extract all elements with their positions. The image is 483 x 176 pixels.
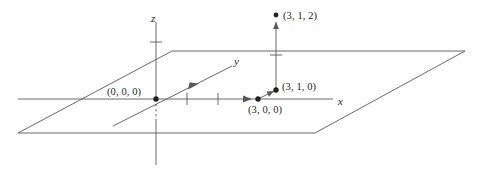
x-step-arrowhead (243, 95, 252, 102)
point-dot-origin (153, 96, 158, 101)
point-label-p312: (3, 1, 2) (283, 11, 317, 22)
coordinate-diagram-figure: x y z (0, 0, 0) (3, 0, 0) (3, 1, 0) (3, … (0, 0, 483, 176)
point-dot-p310 (273, 87, 278, 92)
z-axis-label: z (151, 13, 155, 24)
y-axis-label: y (234, 56, 239, 67)
point-label-origin: (0, 0, 0) (107, 87, 141, 98)
point-label-p310: (3, 1, 0) (282, 82, 316, 93)
x-axis-label: x (338, 96, 343, 107)
diagram-canvas (0, 0, 483, 176)
point-dot-p312 (274, 13, 279, 18)
point-label-p300: (3, 0, 0) (248, 105, 282, 116)
xy-plane-parallelogram (18, 51, 465, 133)
point-dot-p300 (255, 96, 260, 101)
